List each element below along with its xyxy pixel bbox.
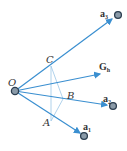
label-gh: Gh [99, 62, 110, 75]
diagram-canvas [0, 0, 127, 151]
node-o [11, 87, 18, 94]
label-a3-sub: 3 [105, 14, 108, 20]
vector-a3 [15, 19, 112, 91]
node-a3 [115, 12, 122, 19]
label-gh-main: G [99, 61, 107, 72]
vector-diagram: O C B A a3 Gh a2 a1 [0, 0, 127, 151]
label-a2-sub: 2 [108, 99, 111, 105]
label-o: O [8, 78, 16, 88]
label-b: B [67, 91, 74, 101]
label-c: C [46, 55, 54, 65]
vector-gh [15, 74, 100, 91]
triangle-abc [51, 66, 63, 121]
label-a1-sub: 1 [88, 127, 91, 133]
label-a2: a2 [103, 94, 111, 107]
label-a3: a3 [100, 9, 108, 22]
label-gh-sub: h [107, 67, 110, 73]
label-a1: a1 [83, 122, 91, 135]
label-a: A [43, 118, 50, 128]
